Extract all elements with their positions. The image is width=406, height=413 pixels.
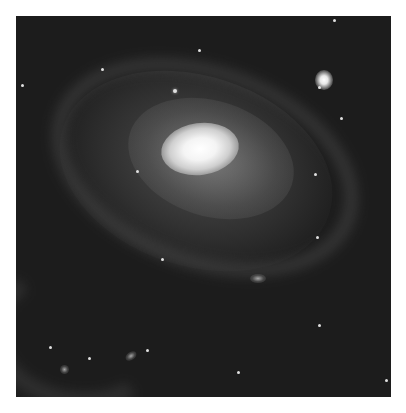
star xyxy=(318,86,321,89)
star xyxy=(198,49,201,52)
star xyxy=(333,19,336,22)
star xyxy=(173,89,177,93)
star xyxy=(88,357,91,360)
star xyxy=(318,324,321,327)
star xyxy=(136,170,139,173)
star xyxy=(316,236,319,239)
star xyxy=(340,117,343,120)
star xyxy=(146,349,149,352)
star xyxy=(237,371,240,374)
star xyxy=(21,84,24,87)
galaxy-image: Barred spiral galaxy with bright core, d… xyxy=(16,16,391,397)
distant-galaxy xyxy=(250,274,266,283)
star xyxy=(101,68,104,71)
star xyxy=(49,346,52,349)
star xyxy=(385,379,388,382)
star xyxy=(314,173,317,176)
distant-galaxy xyxy=(60,365,69,374)
star xyxy=(161,258,164,261)
outer-arm xyxy=(16,251,179,397)
